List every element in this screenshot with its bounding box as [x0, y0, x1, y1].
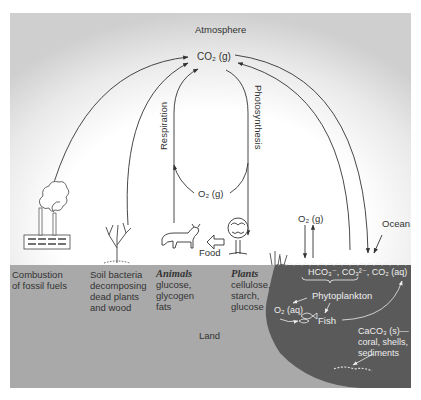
animals-line-1: glucose,	[156, 279, 194, 290]
phytoplankton-label: Phytoplankton	[312, 290, 372, 301]
soil-line-1: Soil bacteria	[90, 269, 147, 280]
photosynthesis-label: Photosynthesis	[253, 85, 264, 149]
fish-label: Fish	[318, 315, 336, 326]
soil-line-3: dead plants	[90, 291, 147, 302]
soil-line-4: and wood	[90, 302, 147, 313]
o2-exchange-label: O₂ (g)	[298, 213, 323, 224]
caco3-label: CaCO₃ (s)— coral, shells, sediments	[358, 326, 409, 359]
o2-gas-cycle-label: O₂ (g)	[198, 188, 223, 199]
ocean-wave-line	[278, 264, 406, 266]
respiration-label: Respiration	[158, 102, 169, 150]
cow-icon	[162, 224, 200, 248]
carbon-cycle-diagram: Atmosphere CO₂ (g) Respiration Photosynt…	[10, 13, 411, 388]
photosynthesis-arrow	[226, 70, 248, 235]
soil-line-2: decomposing	[90, 280, 147, 291]
caco3-line-1: CaCO₃ (s)—	[358, 326, 409, 337]
plants-label: Plants cellulose, starch, glucose	[231, 268, 271, 312]
animals-line-2: glycogen	[156, 290, 194, 301]
soil-bacteria-label: Soil bacteria decomposing dead plants an…	[90, 269, 147, 313]
respiration-arrow	[174, 69, 198, 223]
animals-label: Animals glucose, glycogen fats	[156, 268, 194, 312]
ocean-label: Ocean	[382, 218, 410, 229]
o2-aq-label: O₂ (aq)	[274, 305, 303, 316]
dissolved-carbon-label: HCO₃⁻, CO₃²⁻, CO₂ (aq)	[308, 267, 407, 278]
combustion-label: Combustion of fossil fuels	[12, 269, 67, 291]
factory-icon	[24, 182, 70, 250]
caco3-line-2: coral, shells,	[358, 337, 409, 348]
combustion-line-1: Combustion	[12, 269, 67, 280]
combustion-line-2: of fossil fuels	[12, 280, 67, 291]
plants-line-2: starch,	[231, 290, 271, 301]
plants-title: Plants	[231, 268, 271, 279]
land-label: Land	[199, 330, 220, 341]
atmosphere-label: Atmosphere	[195, 24, 246, 35]
plants-line-1: cellulose,	[231, 279, 271, 290]
o2-loop-right	[230, 163, 248, 193]
tree-icon	[228, 218, 248, 254]
caco3-line-3: sediments	[358, 348, 409, 359]
plants-line-3: glucose	[231, 301, 271, 312]
ocean-pointer-arrow	[374, 235, 382, 253]
food-label: Food	[199, 247, 221, 258]
co2-gas-label: CO₂ (g)	[197, 51, 231, 62]
o2-loop-left	[174, 165, 194, 193]
animals-title: Animals	[156, 268, 194, 279]
dead-tree-icon	[104, 223, 131, 263]
grass-icon	[270, 251, 287, 265]
animals-line-3: fats	[156, 301, 194, 312]
